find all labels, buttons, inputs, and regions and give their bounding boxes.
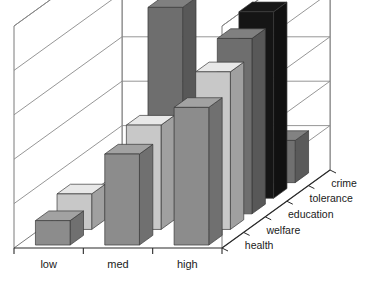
depth-axis-tick-label: health (245, 239, 274, 251)
x-axis-tick-label: high (177, 258, 198, 270)
bar-side-face (139, 144, 152, 245)
bar-3d (174, 98, 222, 245)
chart-canvas: lowmedhigh healthwelfareeducationtoleran… (0, 0, 370, 283)
depth-axis-tick-label: education (288, 208, 334, 220)
bar-side-face (230, 62, 243, 229)
depth-axis-tick (287, 201, 293, 204)
chart-3d-bar: lowmedhigh healthwelfareeducationtoleran… (0, 0, 370, 283)
bar-side-face (252, 29, 265, 214)
x-axis-labels: lowmedhigh (40, 258, 197, 270)
depth-axis-tick (330, 170, 336, 173)
bar-side-face (209, 98, 222, 245)
x-axis-tick-label: low (40, 258, 57, 270)
bar-side-face (161, 115, 174, 229)
bar-side-face (274, 2, 287, 198)
depth-axis-tick-label: welfare (265, 224, 300, 236)
depth-axis-tick (265, 217, 271, 220)
depth-axis-tick-label: tolerance (310, 192, 353, 204)
depth-axis-tick (244, 232, 250, 235)
x-axis-tick-label: med (107, 258, 128, 270)
bar-3d (35, 211, 83, 245)
bar-front-face (174, 107, 209, 245)
depth-axis-tick-label: crime (331, 177, 357, 189)
bar-front-face (105, 154, 140, 245)
bar-front-face (35, 221, 70, 245)
depth-axis-tick (222, 248, 228, 251)
depth-axis-tick (308, 186, 314, 189)
bar-3d (105, 144, 153, 245)
